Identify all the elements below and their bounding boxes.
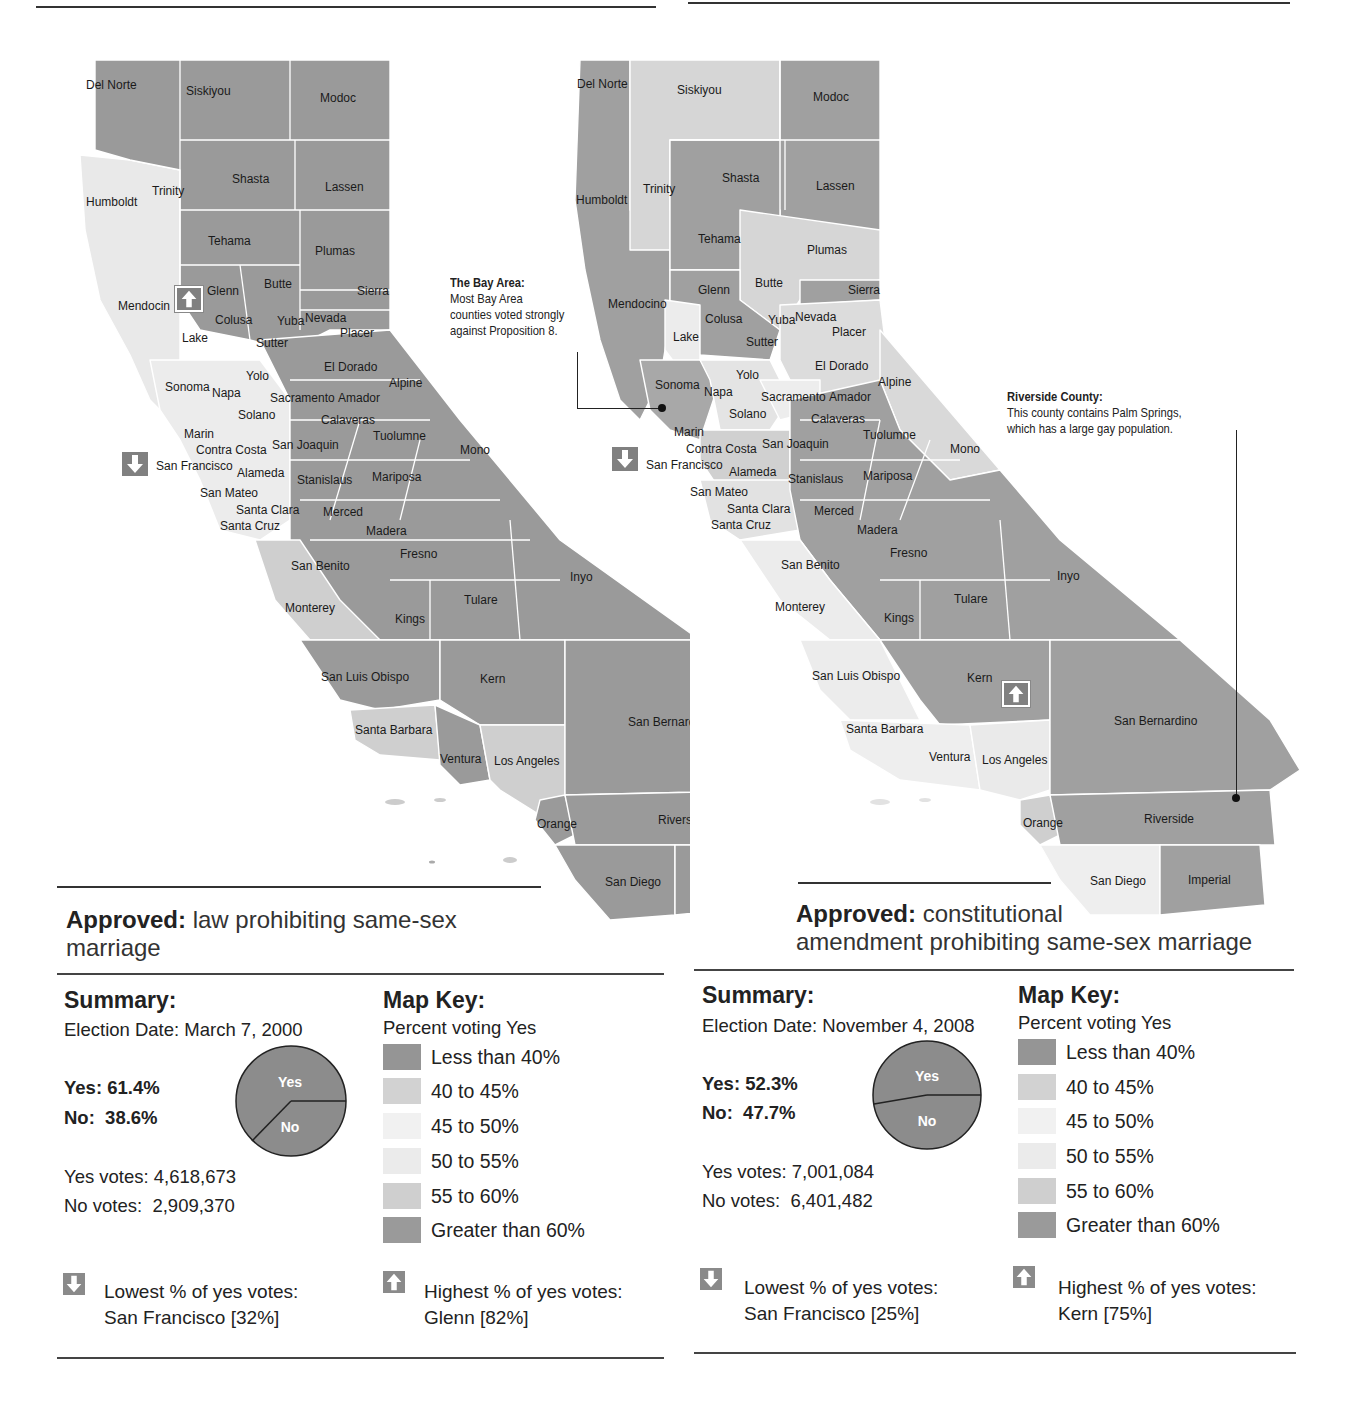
svg-text:Alameda: Alameda: [729, 465, 777, 479]
approved-text: amendment prohibiting same-sex marriage: [796, 928, 1252, 955]
bay-area-callout-line: Most Bay Area: [450, 291, 564, 307]
highest-label: Highest % of yes votes:: [1058, 1275, 1257, 1301]
swatch-40-45: [1018, 1074, 1056, 1100]
svg-text:Napa: Napa: [704, 385, 733, 399]
bottom-rule-1: [57, 1357, 664, 1359]
lowest-icon: [63, 1273, 85, 1295]
svg-text:San Francisco: San Francisco: [156, 459, 233, 473]
yes-no-pie-2008: Yes No: [871, 1039, 983, 1151]
arrow-down-icon: [612, 447, 638, 471]
bay-area-callout-line: against Proposition 8.: [450, 323, 564, 339]
svg-text:Imperial: Imperial: [1188, 873, 1231, 887]
map-key-title: Map Key:: [1018, 982, 1120, 1009]
svg-text:Santa Cruz: Santa Cruz: [711, 518, 771, 532]
riverside-callout-title: Riverside County:: [1007, 389, 1182, 405]
svg-text:Los Angeles: Los Angeles: [982, 753, 1047, 767]
svg-text:Monterey: Monterey: [285, 601, 335, 615]
highest-value: Kern [75%]: [1058, 1301, 1257, 1327]
map-key-title: Map Key:: [383, 987, 485, 1014]
highest-yes: Highest % of yes votes: Kern [75%]: [1058, 1275, 1257, 1327]
svg-text:Glenn: Glenn: [207, 284, 239, 298]
riverside-leader-vertical: [1236, 430, 1237, 796]
svg-text:Marin: Marin: [184, 427, 214, 441]
svg-text:Glenn: Glenn: [698, 283, 730, 297]
bay-area-leader-horizontal: [577, 408, 662, 409]
svg-text:Butte: Butte: [755, 276, 783, 290]
svg-text:Lake: Lake: [673, 330, 699, 344]
highest-icon: [1013, 1266, 1035, 1288]
svg-text:Riverside: Riverside: [1144, 812, 1194, 826]
swatch-gt60: [383, 1217, 421, 1243]
svg-text:Amador: Amador: [338, 391, 380, 405]
yes-percent: Yes: 61.4%: [64, 1077, 160, 1099]
approved-label: Approved:: [66, 906, 186, 933]
no-percent: No: 47.7%: [702, 1102, 796, 1124]
svg-text:Modoc: Modoc: [320, 91, 356, 105]
svg-text:San Mateo: San Mateo: [690, 485, 748, 499]
map-key-item: Less than 40%: [1018, 1039, 1195, 1065]
highest-marker-kern-2008: [1002, 681, 1030, 707]
pie-yes-label: Yes: [278, 1074, 302, 1090]
arrow-up-icon: [1013, 1266, 1035, 1288]
swatch-lt40: [1018, 1039, 1056, 1065]
svg-text:San Benito: San Benito: [781, 558, 840, 572]
svg-text:Contra Costa: Contra Costa: [686, 442, 757, 456]
yes-votes: Yes votes: 7,001,084: [702, 1161, 874, 1183]
approved-rule-top-2: [798, 882, 1051, 884]
svg-text:Mariposa: Mariposa: [863, 469, 913, 483]
svg-text:Tehama: Tehama: [698, 232, 741, 246]
svg-text:Monterey: Monterey: [775, 600, 825, 614]
svg-text:Colusa: Colusa: [705, 312, 743, 326]
election-date: Election Date: March 7, 2000: [64, 1019, 303, 1041]
highest-yes: Highest % of yes votes: Glenn [82%]: [424, 1279, 623, 1331]
svg-text:Del Norte: Del Norte: [86, 78, 137, 92]
svg-text:San Luis Obispo: San Luis Obispo: [812, 669, 900, 683]
map-key-item: Less than 40%: [383, 1044, 560, 1070]
map-key-item: 50 to 55%: [383, 1148, 519, 1174]
svg-text:Sierra: Sierra: [357, 284, 389, 298]
arrow-down-icon: [122, 452, 148, 476]
svg-text:San Joaquin: San Joaquin: [272, 438, 339, 452]
svg-text:Modoc: Modoc: [813, 90, 849, 104]
svg-text:Lake: Lake: [182, 331, 208, 345]
swatch-lt40: [383, 1044, 421, 1070]
svg-text:Amador: Amador: [829, 390, 871, 404]
svg-text:Humboldt: Humboldt: [86, 195, 138, 209]
svg-text:Nevada: Nevada: [795, 310, 837, 324]
svg-text:Merced: Merced: [814, 504, 854, 518]
svg-text:Humboldt: Humboldt: [576, 193, 628, 207]
svg-text:Calaveras: Calaveras: [321, 413, 375, 427]
svg-text:Ventura: Ventura: [440, 752, 482, 766]
svg-text:Ventura: Ventura: [929, 750, 971, 764]
pie-yes-label: Yes: [915, 1068, 939, 1084]
svg-text:El Dorado: El Dorado: [815, 359, 869, 373]
svg-text:Plumas: Plumas: [807, 243, 847, 257]
svg-text:Mendocin: Mendocin: [118, 299, 170, 313]
yes-votes: Yes votes: 4,618,673: [64, 1166, 236, 1188]
lowest-value: San Francisco [32%]: [104, 1305, 298, 1331]
svg-text:Lassen: Lassen: [325, 180, 364, 194]
lowest-value: San Francisco [25%]: [744, 1301, 938, 1327]
approved-heading-2000: Approved: law prohibiting same-sex marri…: [66, 906, 566, 962]
no-percent: No: 38.6%: [64, 1107, 158, 1129]
map-key-item: 40 to 45%: [383, 1078, 519, 1104]
pie-no-label: No: [918, 1113, 937, 1129]
swatch-40-45: [383, 1078, 421, 1104]
bay-area-callout-line: counties voted strongly: [450, 307, 564, 323]
highest-marker-glenn-2000: [175, 286, 203, 312]
yes-no-pie-2000: Yes No: [234, 1044, 348, 1158]
svg-text:Los Angeles: Los Angeles: [494, 754, 559, 768]
svg-text:Mono: Mono: [950, 442, 980, 456]
svg-text:Stanislaus: Stanislaus: [297, 473, 352, 487]
lowest-marker-sf-2000: [122, 452, 148, 476]
svg-text:Orange: Orange: [1023, 816, 1063, 830]
bottom-rule-2: [694, 1352, 1296, 1354]
svg-text:Yuba: Yuba: [277, 314, 305, 328]
svg-text:Tehama: Tehama: [208, 234, 251, 248]
svg-text:San Luis Obispo: San Luis Obispo: [321, 670, 409, 684]
svg-text:Placer: Placer: [832, 325, 866, 339]
bay-area-callout-title: The Bay Area:: [450, 275, 564, 291]
svg-text:San Joaquin: San Joaquin: [762, 437, 829, 451]
svg-text:Mendocino: Mendocino: [608, 297, 667, 311]
svg-text:Siskiyou: Siskiyou: [677, 83, 722, 97]
